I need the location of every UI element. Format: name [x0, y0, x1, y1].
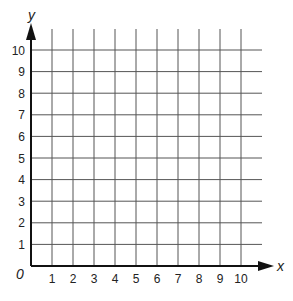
x-axis-label: x	[276, 258, 285, 274]
y-tick-label: 1	[18, 238, 25, 252]
gridlines	[31, 29, 262, 266]
x-tick-label: 1	[49, 272, 56, 286]
coordinate-grid: 1234567891012345678910 x y 0	[0, 0, 293, 301]
x-tick-label: 3	[91, 272, 98, 286]
y-tick-label: 8	[18, 87, 25, 101]
origin-label: 0	[16, 266, 24, 282]
x-tick-label: 2	[70, 272, 77, 286]
y-tick-label: 2	[18, 216, 25, 230]
axes	[26, 23, 274, 271]
x-tick-label: 5	[133, 272, 140, 286]
x-tick-label: 7	[175, 272, 182, 286]
y-axis-arrow-icon	[26, 23, 36, 40]
x-tick-label: 9	[217, 272, 224, 286]
x-tick-label: 4	[112, 272, 119, 286]
y-tick-label: 10	[12, 44, 26, 58]
x-tick-label: 6	[154, 272, 161, 286]
y-tick-label: 6	[18, 130, 25, 144]
y-tick-label: 4	[18, 173, 25, 187]
x-tick-label: 10	[234, 272, 248, 286]
y-tick-label: 5	[18, 152, 25, 166]
y-tick-label: 7	[18, 108, 25, 122]
y-axis-label: y	[27, 7, 36, 23]
tick-labels: 1234567891012345678910	[12, 44, 248, 287]
x-tick-label: 8	[196, 272, 203, 286]
x-axis-arrow-icon	[258, 261, 274, 271]
y-tick-label: 3	[18, 195, 25, 209]
y-tick-label: 9	[18, 65, 25, 79]
